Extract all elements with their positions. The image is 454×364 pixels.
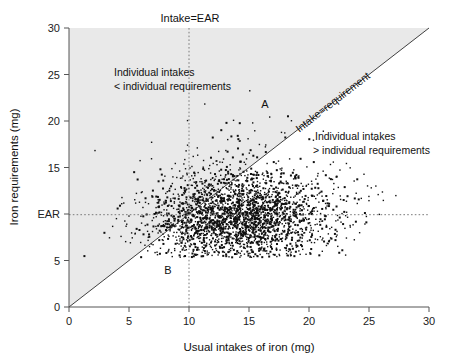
scatter-point [216, 250, 217, 251]
scatter-point [244, 224, 245, 225]
scatter-point [266, 244, 267, 245]
scatter-point [308, 206, 309, 207]
scatter-point [222, 251, 224, 253]
scatter-point [175, 236, 176, 237]
scatter-point [178, 198, 180, 200]
scatter-point [168, 236, 169, 237]
y-tick-label: 20 [48, 115, 60, 127]
scatter-point [209, 239, 210, 240]
scatter-point [199, 202, 201, 204]
scatter-point [246, 179, 247, 180]
scatter-point [211, 233, 212, 234]
scatter-point [293, 215, 294, 216]
scatter-point [195, 203, 196, 204]
scatter-point [288, 251, 289, 252]
scatter-point [236, 224, 237, 225]
scatter-point [202, 209, 204, 211]
scatter-point [220, 230, 221, 231]
scatter-point [234, 209, 235, 210]
scatter-point [210, 193, 212, 195]
scatter-point [215, 200, 216, 201]
scatter-point [226, 199, 227, 200]
scatter-point [346, 201, 347, 202]
scatter-point [197, 203, 198, 204]
scatter-point [274, 212, 276, 214]
scatter-point [201, 211, 202, 212]
scatter-point [212, 197, 213, 198]
scatter-point [311, 188, 313, 190]
scatter-point [261, 226, 263, 228]
scatter-point [321, 228, 323, 230]
scatter-point [229, 185, 230, 186]
scatter-point [161, 212, 162, 213]
scatter-point [228, 222, 229, 223]
scatter-point [185, 224, 187, 226]
scatter-point [187, 204, 188, 205]
scatter-point [214, 241, 216, 243]
scatter-point [255, 224, 256, 225]
scatter-point [165, 220, 166, 221]
scatter-point [236, 208, 238, 210]
scatter-point [285, 191, 287, 193]
scatter-point [279, 236, 280, 237]
scatter-point [269, 116, 270, 117]
scatter-point [248, 193, 249, 194]
scatter-point [280, 208, 282, 210]
scatter-point [152, 231, 153, 232]
scatter-point [270, 231, 271, 232]
scatter-point [274, 236, 276, 238]
scatter-point [238, 252, 239, 253]
scatter-point [253, 174, 255, 176]
scatter-point [347, 217, 348, 218]
scatter-point [337, 215, 338, 216]
scatter-point [267, 192, 268, 193]
scatter-point [217, 183, 219, 185]
scatter-point [271, 217, 273, 219]
scatter-point [234, 219, 235, 220]
scatter-point [210, 203, 211, 204]
scatter-point [322, 200, 324, 202]
scatter-point [177, 229, 178, 230]
scatter-point [300, 220, 302, 222]
scatter-point [231, 182, 232, 183]
scatter-point [216, 244, 217, 245]
scatter-point [305, 229, 307, 231]
scatter-point [275, 224, 277, 226]
scatter-point [168, 204, 169, 205]
scatter-point [219, 209, 221, 211]
scatter-point [182, 238, 184, 240]
scatter-point [244, 232, 246, 234]
scatter-point [185, 180, 186, 181]
scatter-point [184, 250, 185, 251]
scatter-point [204, 234, 206, 236]
scatter-point [273, 217, 274, 218]
scatter-point [246, 170, 247, 171]
scatter-point [284, 220, 285, 221]
scatter-point [263, 236, 264, 237]
scatter-point [277, 215, 278, 216]
scatter-point [302, 231, 303, 232]
scatter-point [216, 204, 217, 205]
scatter-point [281, 218, 282, 219]
scatter-point [347, 195, 349, 197]
y-tick-label: EAR [37, 208, 60, 220]
scatter-point [116, 218, 117, 219]
scatter-point [175, 163, 176, 164]
scatter-point [269, 180, 270, 181]
scatter-point [240, 195, 241, 196]
scatter-point [313, 210, 314, 211]
scatter-point [151, 142, 152, 143]
scatter-point [330, 237, 331, 238]
scatter-point [134, 233, 135, 234]
scatter-point [181, 233, 183, 235]
scatter-point [229, 199, 231, 201]
scatter-point [200, 199, 201, 200]
scatter-point [246, 231, 247, 232]
scatter-point [274, 209, 276, 211]
scatter-point [157, 196, 159, 198]
scatter-point [274, 204, 276, 206]
scatter-point [132, 237, 133, 238]
scatter-point [268, 176, 269, 177]
scatter-point [231, 223, 233, 225]
scatter-point [254, 253, 256, 255]
